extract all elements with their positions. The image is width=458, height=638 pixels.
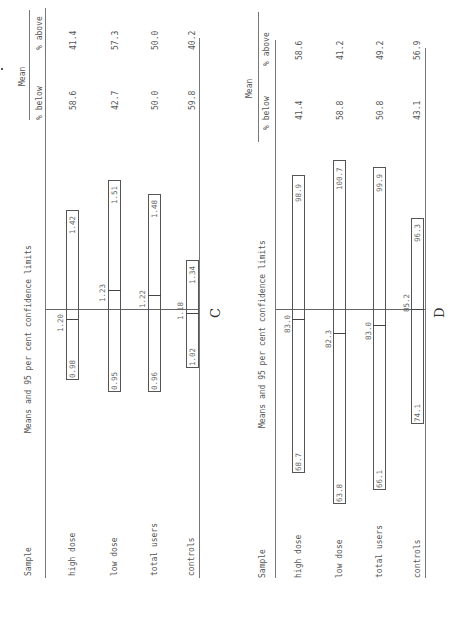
row-label: controls: [413, 539, 422, 578]
mean-group-header: Mean: [18, 67, 27, 86]
below-column-header: % below: [35, 86, 44, 120]
mean-value: 1.20: [56, 314, 65, 332]
confidence-interval-bar: [411, 218, 424, 424]
percent-below: 58.8: [336, 101, 345, 120]
upper-limit: 96.3: [413, 224, 422, 242]
upper-limit: 1.48: [150, 200, 159, 218]
upper-limit: 1.34: [188, 266, 197, 284]
upper-limit: 98.9: [294, 184, 303, 202]
bottom-rule: [199, 38, 200, 578]
percent-below: 50.0: [151, 91, 160, 110]
mean-group-header: Mean: [245, 79, 254, 98]
row-label: high dose: [68, 533, 77, 576]
mean-group-rule: [258, 12, 259, 142]
percent-below: 59.8: [188, 91, 197, 110]
percent-below: 42.7: [111, 91, 120, 110]
mean-value: 1.18: [176, 302, 185, 320]
row-label: low dose: [110, 537, 119, 576]
percent-above: 40.2: [188, 31, 197, 50]
mean-marker: [186, 313, 199, 314]
lower-limit: 66.1: [375, 470, 384, 488]
percent-above: 56.9: [413, 41, 422, 60]
percent-above: 41.2: [336, 41, 345, 60]
mean-marker: [373, 325, 386, 326]
row-label: controls: [187, 537, 196, 576]
rotated-document-page: Sample Means and 95 per cent confidence …: [0, 0, 458, 638]
confidence-interval-bar: [66, 210, 79, 380]
mean-group-rule: [29, 10, 30, 120]
below-column-header: % below: [262, 96, 271, 130]
row-label: high dose: [294, 535, 303, 578]
lower-limit: 0.95: [110, 372, 119, 390]
confidence-interval-bar: [108, 180, 121, 392]
bottom-rule: [425, 48, 426, 578]
confidence-interval-bar: [333, 160, 346, 504]
percent-above: 49.2: [376, 41, 385, 60]
lower-limit: 0.98: [68, 360, 77, 378]
percent-above: 57.3: [111, 31, 120, 50]
chart-title: Means and 95 per cent confidence limits: [24, 245, 33, 433]
percent-above: 58.6: [295, 41, 304, 60]
mean-marker: [66, 319, 79, 320]
upper-limit: 99.9: [375, 174, 384, 192]
sample-column-header: Sample: [24, 547, 33, 576]
mean-marker: [411, 309, 424, 310]
mean-marker: [333, 333, 346, 334]
above-column-header: % above: [262, 32, 271, 66]
lower-limit: 0.96: [150, 372, 159, 390]
upper-limit: 1.51: [110, 186, 119, 204]
mean-value: 1.22: [138, 290, 147, 308]
row-label: total users: [375, 525, 384, 578]
percent-above: 50.0: [151, 31, 160, 50]
mean-value: 82.3: [324, 330, 333, 348]
mean-marker: [108, 290, 121, 291]
confidence-interval-bar: [148, 194, 161, 392]
confidence-interval-bar: [373, 167, 386, 490]
mean-value: 83.0: [364, 322, 373, 340]
row-label: total users: [150, 523, 159, 576]
lower-limit: 74.1: [413, 404, 422, 422]
mean-marker: [148, 295, 161, 296]
mean-value: 85.2: [402, 294, 411, 312]
confidence-interval-bar: [292, 175, 305, 473]
sample-column-header: Sample: [258, 549, 267, 578]
lower-limit: 1.02: [188, 348, 197, 366]
mean-value: 83.0: [283, 315, 292, 333]
percent-above: 41.4: [69, 31, 78, 50]
row-label: low dose: [335, 539, 344, 578]
lower-limit: 68.7: [294, 453, 303, 471]
header-rule: [45, 8, 46, 578]
percent-below: 58.6: [69, 91, 78, 110]
upper-limit: 1.42: [68, 216, 77, 234]
percent-below: 43.1: [413, 101, 422, 120]
upper-limit: 100.7: [335, 167, 344, 190]
chart-title: Means and 95 per cent confidence limits: [258, 240, 267, 428]
panel-label-c: C: [208, 308, 223, 318]
above-column-header: % above: [35, 16, 44, 50]
panel-label-d: D: [432, 308, 447, 318]
lower-limit: 63.8: [335, 484, 344, 502]
percent-below: 41.4: [295, 101, 304, 120]
mean-marker: [292, 319, 305, 320]
percent-below: 50.8: [376, 101, 385, 120]
mean-value: 1.23: [98, 284, 107, 302]
